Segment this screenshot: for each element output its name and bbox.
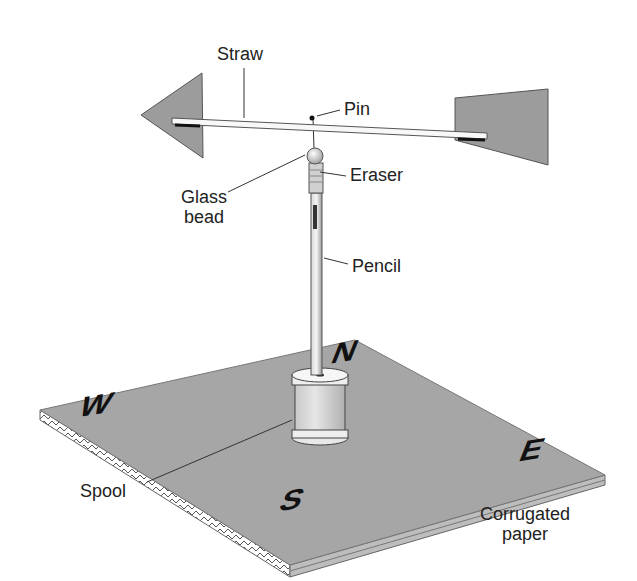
label-glass-bead-line2: bead	[170, 207, 238, 227]
leader-pencil	[324, 258, 348, 264]
spool	[292, 368, 348, 445]
label-pencil: Pencil	[352, 256, 401, 276]
leader-eraser	[320, 172, 346, 176]
label-corrugated-line2: paper	[460, 524, 590, 544]
straw	[172, 118, 487, 140]
eraser	[309, 163, 323, 193]
leader-pin	[317, 110, 340, 116]
pin-head	[310, 116, 315, 121]
label-corrugated-paper: Corrugated paper	[460, 504, 590, 544]
label-pin: Pin	[344, 99, 370, 119]
label-eraser: Eraser	[350, 165, 403, 185]
leader-glass-bead	[228, 155, 305, 192]
glass-bead	[307, 148, 323, 164]
arrow-head	[141, 73, 203, 158]
label-glass-bead: Glass bead	[170, 187, 238, 227]
pin	[313, 118, 314, 148]
label-straw: Straw	[217, 44, 263, 64]
label-glass-bead-line1: Glass	[170, 187, 238, 207]
pencil	[309, 163, 323, 375]
tail-fin	[455, 89, 548, 165]
label-spool: Spool	[80, 481, 126, 501]
label-corrugated-line1: Corrugated	[460, 504, 590, 524]
